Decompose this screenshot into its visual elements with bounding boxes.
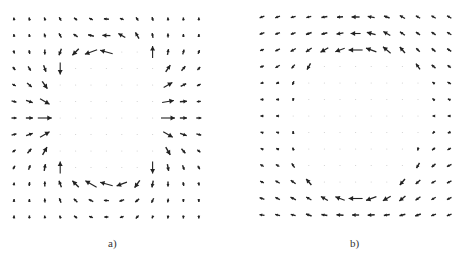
zero-vector-dot [339, 99, 340, 100]
vector-arrow-head [167, 184, 170, 187]
zero-vector-dot [106, 84, 107, 85]
zero-vector-dot [308, 115, 309, 116]
vector-arrow-head [276, 115, 279, 118]
vector-arrow-head [368, 213, 372, 217]
zero-vector-dot [75, 167, 76, 168]
zero-vector-dot [402, 115, 403, 116]
zero-vector-dot [339, 181, 340, 182]
vector-arrow-head [198, 100, 201, 103]
zero-vector-dot [152, 101, 153, 102]
zero-vector-dot [137, 68, 138, 69]
zero-vector-dot [402, 165, 403, 166]
zero-vector-dot [324, 181, 325, 182]
zero-vector-dot [371, 99, 372, 100]
zero-vector-dot [121, 167, 122, 168]
vector-arrow-head [104, 18, 107, 21]
vector-arrow-head [197, 18, 200, 21]
vector-arrow-head [433, 115, 436, 118]
zero-vector-dot [152, 84, 153, 85]
vector-arrow-head [433, 131, 436, 134]
zero-vector-dot [355, 132, 356, 133]
zero-vector-dot [121, 84, 122, 85]
vector-arrow-head [349, 196, 354, 201]
zero-vector-dot [90, 134, 91, 135]
zero-vector-dot [152, 117, 153, 118]
vector-arrow-head [167, 18, 170, 21]
vector-arrow-head [337, 15, 340, 18]
vector-arrow-head [448, 115, 451, 118]
zero-vector-dot [402, 132, 403, 133]
zero-vector-dot [137, 134, 138, 135]
zero-vector-dot [60, 101, 61, 102]
vector-arrow-head [169, 99, 174, 104]
zero-vector-dot [355, 66, 356, 67]
vector-arrow-head [197, 199, 200, 202]
zero-vector-dot [417, 82, 418, 83]
zero-vector-dot [90, 68, 91, 69]
zero-vector-dot [137, 84, 138, 85]
zero-vector-dot [339, 82, 340, 83]
vector-arrow-head [150, 46, 155, 51]
zero-vector-dot [417, 115, 418, 116]
vector-arrow-head [43, 182, 46, 185]
zero-vector-dot [339, 148, 340, 149]
vector-arrow-head [43, 199, 46, 202]
zero-vector-dot [106, 134, 107, 135]
zero-vector-dot [106, 68, 107, 69]
vector-arrow-head [14, 117, 17, 120]
vector-arrow-head [28, 199, 31, 202]
vector-arrow-head [104, 216, 107, 219]
zero-vector-dot [386, 66, 387, 67]
vector-arrow-head [183, 100, 187, 104]
zero-vector-dot [90, 84, 91, 85]
quiver-plot-a [0, 0, 232, 240]
vector-arrow-head [349, 48, 354, 53]
vector-field-b [232, 0, 464, 240]
zero-vector-dot [371, 115, 372, 116]
zero-vector-dot [137, 150, 138, 151]
caption-b: b) [350, 237, 359, 249]
vector-arrow-head [197, 34, 200, 37]
zero-vector-dot [90, 167, 91, 168]
vector-arrow-head [58, 162, 63, 167]
vector-arrow-head [183, 116, 187, 120]
zero-vector-dot [75, 117, 76, 118]
zero-vector-dot [293, 115, 294, 116]
zero-vector-dot [386, 132, 387, 133]
vector-arrow-head [171, 116, 176, 121]
zero-vector-dot [75, 150, 76, 151]
vector-arrow-head [182, 216, 185, 219]
vector-arrow-head [292, 131, 295, 134]
zero-vector-dot [121, 101, 122, 102]
zero-vector-dot [355, 148, 356, 149]
vector-arrow-head [352, 15, 356, 19]
zero-vector-dot [121, 150, 122, 151]
zero-vector-dot [386, 181, 387, 182]
zero-vector-dot [60, 117, 61, 118]
vector-arrow-head [199, 117, 202, 120]
zero-vector-dot [355, 181, 356, 182]
vector-arrow-head [100, 181, 105, 186]
zero-vector-dot [90, 101, 91, 102]
zero-vector-dot [386, 148, 387, 149]
vector-field-a [0, 0, 232, 240]
zero-vector-dot [339, 66, 340, 67]
vector-arrow-head [261, 115, 264, 118]
zero-vector-dot [371, 181, 372, 182]
zero-vector-dot [324, 132, 325, 133]
zero-vector-dot [355, 165, 356, 166]
zero-vector-dot [402, 82, 403, 83]
zero-vector-dot [417, 132, 418, 133]
zero-vector-dot [106, 101, 107, 102]
zero-vector-dot [324, 165, 325, 166]
zero-vector-dot [106, 117, 107, 118]
zero-vector-dot [60, 134, 61, 135]
caption-a: a) [108, 237, 117, 249]
zero-vector-dot [90, 150, 91, 151]
zero-vector-dot [308, 148, 309, 149]
zero-vector-dot [324, 66, 325, 67]
quiver-plot-b [232, 0, 464, 240]
zero-vector-dot [339, 132, 340, 133]
zero-vector-dot [371, 165, 372, 166]
zero-vector-dot [75, 134, 76, 135]
